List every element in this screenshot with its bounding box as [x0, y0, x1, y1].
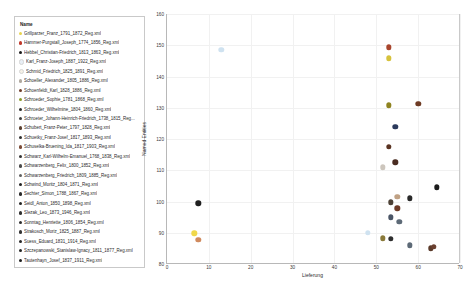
y-tick-label: 80 — [159, 262, 164, 267]
legend-item-label: Schuselka-Bruening_Ida_1817_1903_Reg.xml — [24, 142, 115, 151]
legend-color-swatch — [19, 249, 22, 252]
legend-item-label: Strakosch_Moriz_1825_1887_Reg.xml — [24, 227, 100, 236]
scatter-point[interactable] — [397, 219, 402, 224]
legend-item-label: Suess_Eduard_1831_1914_Reg.xml — [24, 237, 96, 246]
scatter-point[interactable] — [386, 144, 391, 149]
scatter-point[interactable] — [388, 236, 393, 241]
gridline-horizontal — [167, 170, 459, 171]
y-axis-title: Named Entities — [141, 122, 147, 156]
scatter-point[interactable] — [434, 185, 439, 190]
legend-item[interactable]: Schwind_Moritz_1804_1871_Reg.xml — [19, 180, 141, 189]
legend-item[interactable]: Schroeter_Johann-Heinrich-Friedrich_1738… — [19, 114, 141, 123]
legend-item-label: Schmid_Friedrich_1825_1891_Reg.xml — [26, 67, 103, 76]
legend-color-swatch — [19, 51, 22, 54]
gridline-vertical — [293, 14, 294, 263]
legend-item[interactable]: Schubert_Franz-Peter_1797_1828_Reg.xml — [19, 123, 141, 132]
scatter-plot-app: Name Grillparzer_Franz_1791_1872_Reg.xml… — [0, 0, 472, 286]
legend-item[interactable]: Karl_Franz-Joseph_1887_1922_Reg.xml — [19, 57, 141, 66]
legend-color-swatch — [19, 69, 24, 74]
x-tick-label: 50 — [374, 265, 379, 270]
legend-color-swatch — [19, 155, 22, 158]
legend-item[interactable]: Grillparzer_Franz_1791_1872_Reg.xml — [19, 29, 141, 38]
legend-item[interactable]: Schoeller_Alexander_1805_1886_Reg.xml — [19, 76, 141, 85]
scatter-point[interactable] — [196, 201, 201, 206]
legend-item[interactable]: Schoenfeldt_Karl_1828_1886_Reg.xml — [19, 86, 141, 95]
legend-item[interactable]: Hammer-Purgstall_Joseph_1774_1856_Reg.xm… — [19, 38, 141, 47]
legend-color-swatch — [19, 108, 22, 111]
legend-item[interactable]: Schwarzenberg_Friedrich_1809_1885_Reg.xm… — [19, 171, 141, 180]
y-tick-label: 90 — [159, 230, 164, 235]
legend-item-label: Schoeller_Alexander_1805_1886_Reg.xml — [24, 76, 108, 85]
scatter-point[interactable] — [388, 214, 393, 219]
y-tick-label: 110 — [157, 168, 164, 173]
y-tick-label: 150 — [156, 43, 164, 48]
legend-item-label: Schuetky_Franz-Josef_1817_1893_Reg.xml — [24, 133, 111, 142]
legend-color-swatch — [19, 211, 22, 214]
legend-item-label: Sonntag_Henriette_1806_1854_Reg.xml — [24, 218, 104, 227]
legend-item[interactable]: Suess_Eduard_1831_1914_Reg.xml — [19, 237, 141, 246]
scatter-point[interactable] — [196, 237, 201, 242]
scatter-point[interactable] — [407, 196, 412, 201]
legend-color-swatch — [19, 79, 22, 82]
legend-item[interactable]: Schroeder_Sophie_1781_1868_Reg.xml — [19, 95, 141, 104]
gridline-vertical — [209, 14, 210, 263]
scatter-point[interactable] — [431, 244, 436, 249]
legend-item-label: Grillparzer_Franz_1791_1872_Reg.xml — [24, 29, 101, 38]
scatter-point[interactable] — [392, 124, 397, 129]
legend-color-swatch — [19, 89, 22, 92]
legend-item[interactable]: Sonntag_Henriette_1806_1854_Reg.xml — [19, 218, 141, 227]
scatter-point[interactable] — [386, 56, 391, 61]
scatter-point[interactable] — [395, 206, 400, 211]
scatter-point[interactable] — [380, 164, 385, 169]
legend-item-label: Karl_Franz-Joseph_1887_1922_Reg.xml — [26, 57, 106, 66]
legend-item[interactable]: Schmid_Friedrich_1825_1891_Reg.xml — [19, 67, 141, 76]
y-tick-label: 160 — [156, 12, 164, 17]
legend-item[interactable]: Schuetky_Franz-Josef_1817_1893_Reg.xml — [19, 133, 141, 142]
legend-item-label: Schoenfeldt_Karl_1828_1886_Reg.xml — [24, 86, 101, 95]
legend-item-label: Schwarzenberg_Felix_1800_1852_Reg.xml — [24, 161, 109, 170]
gridline-vertical — [334, 14, 335, 263]
legend-item-label: Schubert_Franz-Peter_1797_1828_Reg.xml — [24, 123, 110, 132]
legend-item-label: Schwarzenberg_Friedrich_1809_1885_Reg.xm… — [24, 171, 117, 180]
legend-item[interactable]: Seidl_Anton_1850_1898_Reg.xml — [19, 199, 141, 208]
y-tick-label: 140 — [156, 74, 164, 79]
scatter-point[interactable] — [388, 200, 393, 205]
legend-item[interactable]: Schwarzenberg_Felix_1800_1852_Reg.xml — [19, 161, 141, 170]
legend-item-label: Hebbel_Christian-Friedrich_1813_1863_Reg… — [24, 48, 119, 57]
legend-item-label: Schwind_Moritz_1804_1871_Reg.xml — [24, 180, 98, 189]
legend-item[interactable]: Slezak_Leo_1873_1946_Reg.xml — [19, 208, 141, 217]
legend-item-label: Schwarz_Karl-Wilhelm-Emanuel_1768_1838_R… — [24, 152, 130, 161]
legend-color-swatch — [19, 126, 22, 129]
scatter-point[interactable] — [407, 243, 412, 248]
scatter-point[interactable] — [386, 45, 391, 50]
scatter-point[interactable] — [219, 47, 224, 52]
scatter-point[interactable] — [395, 194, 400, 199]
gridline-vertical — [376, 14, 377, 263]
legend-item[interactable]: Tautenhayn_Josef_1837_1911_Reg.xml — [19, 256, 141, 265]
scatter-point[interactable] — [192, 231, 197, 236]
scatter-point[interactable] — [365, 230, 370, 235]
legend-item[interactable]: Schuselka-Bruening_Ida_1817_1903_Reg.xml — [19, 142, 141, 151]
x-tick-label: 70 — [457, 265, 462, 270]
scatter-point[interactable] — [380, 236, 385, 241]
scatter-point[interactable] — [415, 101, 420, 106]
legend-color-swatch — [19, 117, 22, 120]
gridline-horizontal — [167, 45, 459, 46]
gridline-vertical — [418, 14, 419, 263]
legend-color-swatch — [19, 183, 22, 186]
plot-panel: Named Entities 8090100110120130140150160… — [147, 8, 465, 280]
legend-item[interactable]: Hebbel_Christian-Friedrich_1813_1863_Reg… — [19, 48, 141, 57]
legend-item[interactable]: Szczepanowski_Stanislaw-Ignacy_1811_1877… — [19, 246, 141, 255]
legend-color-swatch — [19, 136, 22, 139]
legend-color-swatch — [19, 221, 22, 224]
legend-item[interactable]: Sechter_Simon_1788_1867_Reg.xml — [19, 189, 141, 198]
legend-panel: Name Grillparzer_Franz_1791_1872_Reg.xml… — [14, 16, 145, 268]
scatter-point[interactable] — [392, 160, 397, 165]
y-tick-label: 130 — [156, 105, 164, 110]
legend-color-swatch — [19, 240, 22, 243]
legend-item[interactable]: Schroeder_Wilhelmine_1804_1860_Reg.xml — [19, 105, 141, 114]
legend-item[interactable]: Strakosch_Moriz_1825_1887_Reg.xml — [19, 227, 141, 236]
legend-item[interactable]: Schwarz_Karl-Wilhelm-Emanuel_1768_1838_R… — [19, 152, 141, 161]
legend-item-label: Hammer-Purgstall_Joseph_1774_1856_Reg.xm… — [24, 38, 119, 47]
legend-color-swatch — [19, 192, 22, 195]
